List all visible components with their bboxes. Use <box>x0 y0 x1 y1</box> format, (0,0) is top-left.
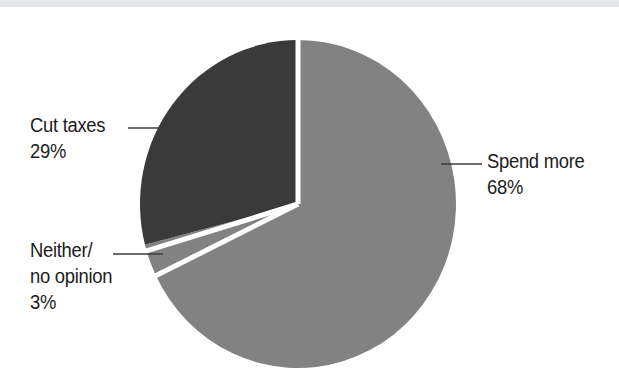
chart-area: Cut taxes 29% Neither/ no opinion 3% Spe… <box>0 0 619 391</box>
pie-label-neither-no-opinion: Neither/ no opinion 3% <box>30 237 112 315</box>
pie-label-cut-taxes: Cut taxes 29% <box>30 112 105 164</box>
pie-label-neither-name-line1: Neither/ <box>30 237 112 263</box>
pie-label-spend-more-value: 68% <box>487 174 584 200</box>
pie-label-neither-name-line2: no opinion <box>30 263 112 289</box>
pie-chart-page: Cut taxes 29% Neither/ no opinion 3% Spe… <box>0 0 619 391</box>
pie-label-cut-taxes-value: 29% <box>30 138 105 164</box>
pie-label-spend-more-name: Spend more <box>487 148 584 174</box>
pie-label-cut-taxes-name: Cut taxes <box>30 112 105 138</box>
pie-label-neither-value: 3% <box>30 289 112 315</box>
pie-label-spend-more: Spend more 68% <box>487 148 584 200</box>
